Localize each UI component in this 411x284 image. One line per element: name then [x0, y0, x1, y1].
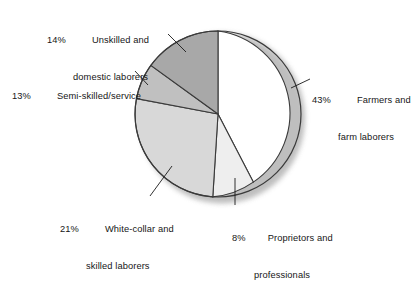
callout-semiskilled-percent: 13%	[12, 91, 31, 101]
callout-proprietors-percent: 8%	[232, 233, 246, 243]
callout-whitecollar: 21%White-collar and skilled laborers	[60, 199, 174, 284]
callout-semiskilled: 13%Semi-skilled/service	[12, 66, 141, 127]
callout-farmers-label-line1: Farmers and	[357, 95, 411, 105]
callout-unskilled-percent: 14%	[47, 35, 66, 45]
callout-proprietors-label-line1: Proprietors and	[268, 233, 333, 243]
callout-farmers-percent: 43%	[312, 95, 331, 105]
callout-whitecollar-percent: 21%	[60, 224, 79, 234]
callout-whitecollar-label-line2: skilled laborers	[60, 260, 174, 272]
callout-farmers-label-line2: farm laborers	[312, 131, 411, 143]
callout-proprietors-label-line2: professionals	[232, 269, 333, 281]
callout-farmers: 43%Farmers and farm laborers	[312, 70, 411, 168]
callout-proprietors: 8%Proprietors and professionals	[232, 208, 333, 284]
pie-slice-whitecollar[interactable]	[135, 99, 218, 197]
callout-unskilled-label-line1: Unskilled and	[92, 35, 149, 45]
callout-semiskilled-label-line1: Semi-skilled/service	[57, 91, 141, 101]
callout-whitecollar-label-line1: White-collar and	[105, 224, 174, 234]
